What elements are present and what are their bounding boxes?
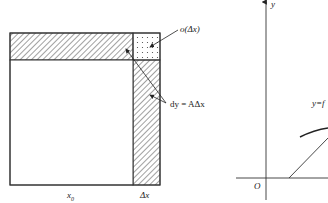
diagram-canvas: [0, 0, 328, 203]
tangent-line: [289, 138, 328, 178]
label-curve: y=f: [312, 98, 325, 108]
function-curve: [300, 128, 328, 137]
right-hatched-strip: [133, 60, 160, 185]
corner-dotted-square: [133, 33, 160, 60]
top-hatched-strip: [10, 33, 133, 60]
label-y-axis: y: [271, 0, 275, 9]
label-delta-x: Δx: [140, 190, 149, 200]
square-area-diagram: [10, 30, 178, 185]
label-o-delta-x: o(Δx): [180, 24, 200, 34]
label-x0: x0: [67, 190, 74, 202]
label-dy: dy = AΔx: [170, 99, 205, 109]
main-square: [10, 60, 133, 185]
label-origin: O: [254, 181, 261, 191]
